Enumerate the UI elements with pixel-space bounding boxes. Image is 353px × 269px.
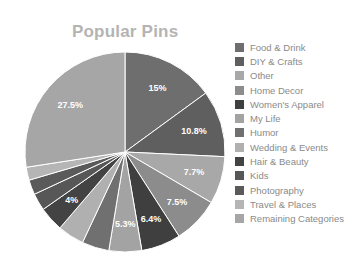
legend-swatch [235, 186, 244, 195]
legend-item[interactable]: Women's Apparel [235, 97, 344, 111]
slice-data-label: 10.8% [181, 126, 207, 136]
legend-swatch [235, 100, 244, 109]
slice-data-label: 4% [65, 195, 78, 205]
legend-swatch [235, 200, 244, 209]
slice-data-label: 7.7% [184, 167, 205, 177]
legend-label: Humor [250, 127, 279, 138]
legend-label: Home Decor [250, 85, 303, 96]
legend-label: Hair & Beauty [250, 156, 309, 167]
legend-item[interactable]: Remaining Categories [235, 212, 344, 226]
legend-item[interactable]: Other [235, 69, 344, 83]
legend-swatch [235, 143, 244, 152]
legend-item[interactable]: My Life [235, 111, 344, 125]
legend-swatch [235, 128, 244, 137]
legend-item[interactable]: Home Decor [235, 83, 344, 97]
legend-item[interactable]: Hair & Beauty [235, 154, 344, 168]
legend-item[interactable]: Travel & Places [235, 197, 344, 211]
legend-label: Photography [250, 185, 304, 196]
legend-item[interactable]: DIY & Crafts [235, 54, 344, 68]
slice-data-label: 27.5% [58, 100, 84, 110]
slice-data-label: 7.5% [167, 197, 188, 207]
legend-swatch [235, 114, 244, 123]
legend-label: Kids [250, 170, 268, 181]
legend-label: DIY & Crafts [250, 56, 303, 67]
legend-label: Remaining Categories [250, 213, 344, 224]
legend-swatch [235, 86, 244, 95]
legend-swatch [235, 57, 244, 66]
legend-label: Travel & Places [250, 199, 316, 210]
legend-item[interactable]: Wedding & Events [235, 140, 344, 154]
legend-swatch [235, 71, 244, 80]
legend-label: Food & Drink [250, 42, 305, 53]
legend-swatch [235, 214, 244, 223]
legend-item[interactable]: Humor [235, 126, 344, 140]
slice-data-label: 5.3% [115, 219, 136, 229]
legend-item[interactable]: Food & Drink [235, 40, 344, 54]
slice-data-label: 15% [149, 83, 167, 93]
legend-swatch [235, 171, 244, 180]
legend-item[interactable]: Photography [235, 183, 344, 197]
legend-item[interactable]: Kids [235, 169, 344, 183]
legend-swatch [235, 157, 244, 166]
legend-label: Other [250, 70, 274, 81]
legend-label: Women's Apparel [250, 99, 324, 110]
legend: Food & DrinkDIY & CraftsOtherHome DecorW… [235, 40, 344, 226]
legend-label: My Life [250, 113, 281, 124]
legend-label: Wedding & Events [250, 142, 328, 153]
slice-data-label: 6.4% [141, 214, 162, 224]
legend-swatch [235, 43, 244, 52]
